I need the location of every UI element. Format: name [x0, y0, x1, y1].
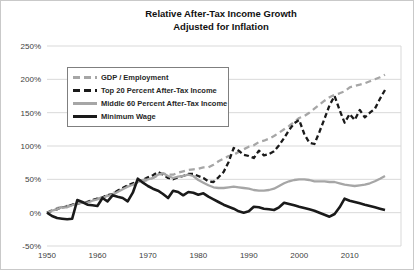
legend-item: Middle 60 Percent After-Tax Income — [73, 97, 223, 110]
x-tick-label: 1960 — [89, 251, 107, 260]
y-tick-label: 250% — [21, 42, 41, 51]
legend-line-swatch — [73, 115, 97, 118]
legend-item: GDP / Employment — [73, 71, 223, 84]
chart: Relative After-Tax Income Growth Adjuste… — [0, 0, 414, 270]
x-tick-label: 1980 — [189, 251, 207, 260]
legend-label: Top 20 Percent After-Tax Income — [101, 86, 217, 95]
legend-label: Minimum Wage — [101, 112, 156, 121]
y-tick-label: 50% — [25, 175, 41, 184]
y-tick-label: 200% — [21, 75, 41, 84]
y-tick-label: 150% — [21, 109, 41, 118]
legend-item: Top 20 Percent After-Tax Income — [73, 84, 223, 97]
x-tick-label: 1990 — [240, 251, 258, 260]
y-tick-label: 0% — [29, 209, 41, 218]
legend-line-swatch — [73, 102, 97, 105]
plot-area: 250%200%150%100%50%0%-50%195019601970198… — [1, 1, 413, 269]
legend-label: Middle 60 Percent After-Tax Income — [101, 99, 227, 108]
legend-line-swatch — [73, 89, 97, 92]
legend-item: Minimum Wage — [73, 110, 223, 123]
legend: GDP / EmploymentTop 20 Percent After-Tax… — [67, 67, 229, 127]
y-tick-label: -50% — [22, 242, 41, 251]
x-tick-label: 1950 — [38, 251, 56, 260]
y-tick-label: 100% — [21, 142, 41, 151]
legend-label: GDP / Employment — [101, 73, 168, 82]
x-tick-label: 1970 — [139, 251, 157, 260]
x-tick-label: 2000 — [290, 251, 308, 260]
legend-line-swatch — [73, 76, 97, 79]
x-tick-label: 2010 — [341, 251, 359, 260]
